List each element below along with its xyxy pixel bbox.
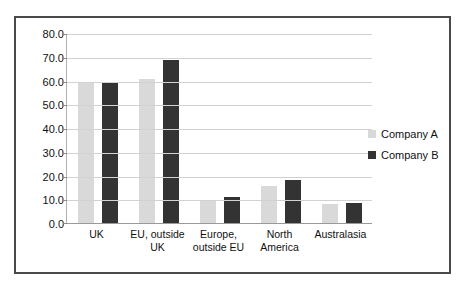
x-axis-baseline [67, 223, 372, 224]
bar[interactable] [261, 186, 277, 224]
y-axis-tick-labels: 80.070.060.050.040.030.020.010.00.0 [22, 28, 64, 234]
gridline [67, 82, 372, 83]
chart-frame: 80.070.060.050.040.030.020.010.00.0 UKEU… [14, 16, 451, 274]
legend-swatch-icon [368, 151, 376, 159]
gridline [67, 34, 372, 35]
gridline [67, 200, 372, 201]
gridline [67, 105, 372, 106]
x-axis-tick-label: UK [66, 228, 127, 253]
y-axis-tick-label: 0.0 [49, 219, 64, 230]
y-axis-tick-mark [63, 200, 67, 201]
y-axis-tick-mark [63, 105, 67, 106]
legend-item[interactable]: Company B [368, 149, 452, 161]
y-axis-tick-mark [63, 223, 67, 224]
bar[interactable] [322, 204, 338, 224]
y-axis-tick-label: 80.0 [43, 29, 64, 40]
bar[interactable] [346, 203, 362, 224]
gridline [67, 129, 372, 130]
y-axis-tick-label: 30.0 [43, 147, 64, 158]
bar[interactable] [200, 200, 216, 224]
legend-item[interactable]: Company A [368, 128, 452, 140]
y-axis-tick-label: 60.0 [43, 76, 64, 87]
legend-label: Company A [381, 128, 438, 140]
y-axis-tick-mark [63, 129, 67, 130]
gridline [67, 58, 372, 59]
gridline [67, 153, 372, 154]
chart-plot-wrapper: 80.070.060.050.040.030.020.010.00.0 UKEU… [16, 18, 449, 272]
y-axis-tick-label: 20.0 [43, 171, 64, 182]
legend-swatch-icon [368, 130, 376, 138]
y-axis-tick-label: 40.0 [43, 124, 64, 135]
y-axis-tick-mark [63, 58, 67, 59]
y-axis-tick-mark [63, 153, 67, 154]
y-axis-tick-mark [63, 34, 67, 35]
y-axis-tick-label: 10.0 [43, 195, 64, 206]
chart-legend: Company ACompany B [368, 128, 452, 170]
top-caption [16, 0, 446, 6]
x-axis-tick-label: Europe, outside EU [188, 228, 249, 253]
y-axis-tick-label: 70.0 [43, 52, 64, 63]
x-axis-tick-label: EU, outside UK [127, 228, 188, 253]
x-axis-tick-label: North America [249, 228, 310, 253]
legend-label: Company B [381, 149, 438, 161]
y-axis-tick-mark [63, 177, 67, 178]
x-axis-tick-label: Australasia [310, 228, 371, 253]
gridline [67, 177, 372, 178]
plot-area [66, 34, 372, 224]
bar[interactable] [139, 79, 155, 224]
bar[interactable] [285, 180, 301, 224]
y-axis-tick-mark [63, 82, 67, 83]
x-axis-tick-labels: UKEU, outside UKEurope, outside EUNorth … [66, 228, 371, 253]
y-axis-tick-label: 50.0 [43, 100, 64, 111]
